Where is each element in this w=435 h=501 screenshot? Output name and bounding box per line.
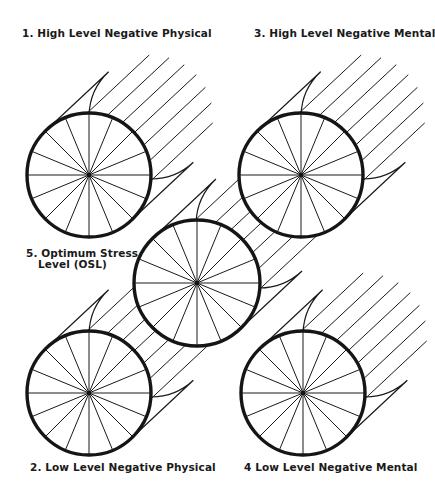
wheel-wheel1 xyxy=(27,113,151,237)
label-low-level-negative-physical: 2. Low Level Negative Physical xyxy=(30,461,216,473)
label-optimum-stress-level: 5. Optimum Stress Level (OSL) xyxy=(26,248,138,270)
wheel-faces xyxy=(27,113,365,455)
label-low-level-negative-mental: 4 Low Level Negative Mental xyxy=(244,461,417,473)
hub-icon xyxy=(195,281,199,285)
hub-icon xyxy=(301,391,305,395)
label-high-level-negative-mental: 3. High Level Negative Mental xyxy=(254,27,435,39)
label-high-level-negative-physical: 1. High Level Negative Physical xyxy=(22,27,212,39)
wheel-wheel5 xyxy=(134,220,260,346)
label-osl-line2: Level (OSL) xyxy=(26,259,138,270)
hub-icon xyxy=(87,173,91,177)
hub-icon xyxy=(87,391,91,395)
wheel-wheel4 xyxy=(241,331,365,455)
wheel-wheel3 xyxy=(239,113,363,237)
hub-icon xyxy=(299,173,303,177)
wheel-wheel2 xyxy=(27,331,151,455)
